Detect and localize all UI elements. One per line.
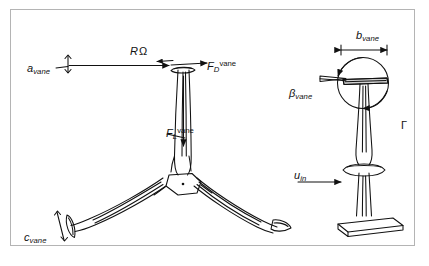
label-drag-force: FDvane [207,60,236,74]
b-vane-dimension [341,45,387,55]
label-alpha-vane-subscript: vane [33,67,50,76]
label-pitch-angle: βvane [289,88,312,101]
tower-shaft [356,84,372,165]
drag-force-arrow [171,63,207,65]
label-circulation-symbol: Γ [401,119,407,131]
label-circulation: Γ [401,120,407,131]
label-alpha-vane: avane [27,63,50,76]
label-chord-subscript: vane [30,236,47,245]
label-pitch-angle-subscript: vane [295,92,312,101]
label-inflow-velocity-subscript: in [300,174,306,183]
label-chord: cvane [24,232,47,245]
lower-left-blade [71,178,166,232]
lower-right-blade [194,178,277,233]
label-lift-force-symbol: F [166,127,173,139]
label-drag-force-symbol: F [207,60,214,72]
label-lift-force-superscript: vane [177,126,194,135]
label-tip-speed: R Ω [130,46,147,57]
label-inflow-velocity: uin [294,170,306,183]
a-vane-leader [56,67,68,69]
label-drag-force-superscript: vane [219,59,236,68]
base-plate [338,218,403,237]
blade-cross-section [343,78,388,85]
lower-nacelle [343,164,385,176]
lower-mast [357,173,372,216]
left-blade-tip-vane [66,215,75,238]
c-vane-dimension [55,211,68,241]
rotor-hub [166,174,201,196]
label-span: bvane [356,30,379,43]
label-tip-speed-symbol: R [130,45,138,57]
figure-drawing [11,10,416,247]
beta-angle-wedge [320,76,346,82]
label-tip-speed-omega: Ω [139,45,147,57]
tip-relative-wind-arrow [157,61,173,62]
label-lift-force: FLvane [166,127,194,141]
figure-frame: avane R Ω FDvane FLvane cvane bvane βvan… [10,9,415,246]
label-span-subscript: vane [362,34,379,43]
a-vane-dimension [65,55,71,73]
upper-blade [174,70,191,175]
